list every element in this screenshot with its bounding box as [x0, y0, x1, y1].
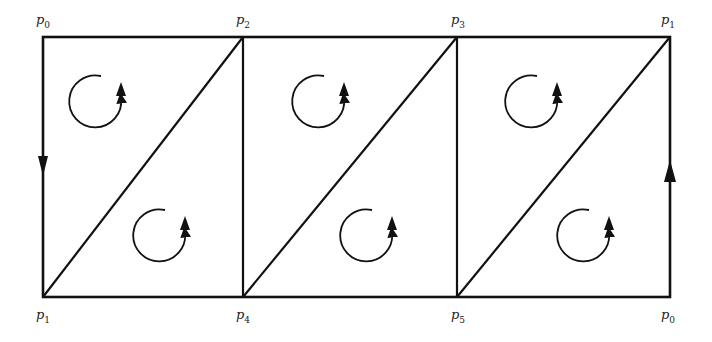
label-subscript: 3	[459, 20, 465, 30]
rotation-arrow-icon	[340, 209, 392, 261]
vertex-label-bot-1: p4	[236, 308, 250, 325]
rotation-arrow-icon	[133, 209, 185, 261]
rotation-arrow-icon	[292, 75, 344, 127]
diagonal-edge	[457, 37, 670, 297]
label-subscript: 1	[669, 20, 675, 30]
label-subscript: 4	[244, 315, 250, 325]
arrowhead-icon	[387, 216, 397, 230]
vertex-label-top-0: p0	[36, 13, 50, 30]
rotation-arrow-icon	[69, 75, 121, 127]
vertex-label-top-1: p2	[236, 13, 250, 30]
arrowhead-icon	[552, 82, 562, 96]
label-subscript: 0	[44, 20, 50, 30]
arrowhead-icon	[180, 216, 190, 230]
vertex-label-top-3: p1	[661, 13, 675, 30]
arrow-up-icon	[664, 160, 676, 182]
arrowhead-icon	[339, 82, 349, 96]
vertex-label-bot-0: p1	[36, 308, 50, 325]
vertex-label-bot-2: p5	[451, 308, 465, 325]
strip-outline	[43, 37, 670, 297]
rotation-arrow-icon	[557, 209, 609, 261]
arrow-down-icon	[38, 156, 48, 176]
vertex-label-bot-3: p0	[661, 308, 675, 325]
rotation-arrow-icon	[505, 75, 557, 127]
diagonal-edge	[243, 37, 457, 297]
label-subscript: 0	[669, 315, 675, 325]
label-subscript: 1	[44, 315, 50, 325]
label-subscript: 2	[244, 20, 250, 30]
diagonal-edge	[43, 37, 243, 297]
diagram-canvas	[0, 0, 712, 342]
label-subscript: 5	[459, 315, 465, 325]
arrowhead-icon	[116, 82, 126, 96]
arrowhead-icon	[604, 216, 614, 230]
vertex-label-top-2: p3	[451, 13, 465, 30]
